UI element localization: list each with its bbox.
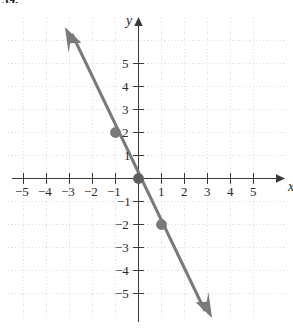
x-axis (12, 174, 285, 182)
x-tick-label-2: 2 (181, 185, 188, 198)
x-tick-label-4: 4 (227, 185, 234, 198)
coordinate-plane: −5 −4 −3 −2 −1 1 2 3 4 5 5 4 3 2 1 −1 −2… (0, 0, 293, 331)
x-axis-label: x (288, 180, 293, 194)
y-tick-label--3: −3 (115, 241, 129, 254)
y-axis-arrowhead (134, 17, 142, 26)
y-tick-label-1: 1 (124, 149, 131, 162)
y-tick-label-3: 3 (122, 103, 129, 116)
point-marker (110, 127, 121, 138)
point-marker (133, 173, 144, 184)
y-tick-label--4: −4 (115, 264, 129, 277)
x-tick-label--3: −3 (61, 185, 75, 198)
x-tick-label--4: −4 (38, 185, 52, 198)
x-tick-label-3: 3 (204, 185, 211, 198)
y-tick-label--5: −5 (115, 287, 129, 300)
y-tick-label-5: 5 (122, 57, 129, 70)
x-tick-label--5: −5 (15, 185, 29, 198)
x-tick-label-5: 5 (250, 185, 257, 198)
x-axis-arrowhead (276, 174, 285, 182)
grid-horizontal (8, 41, 285, 294)
graph-page: 39. (0, 0, 293, 331)
x-tick-label-1: 1 (158, 185, 165, 198)
y-tick-label-4: 4 (122, 80, 129, 93)
y-tick-label--2: −2 (115, 218, 129, 231)
y-tick-label--1: −1 (117, 195, 131, 208)
x-tick-label--2: −2 (84, 185, 98, 198)
y-axis-label: y (126, 14, 132, 28)
graph-canvas (0, 0, 293, 331)
y-tick-label-2: 2 (122, 126, 129, 139)
point-marker (156, 219, 167, 230)
